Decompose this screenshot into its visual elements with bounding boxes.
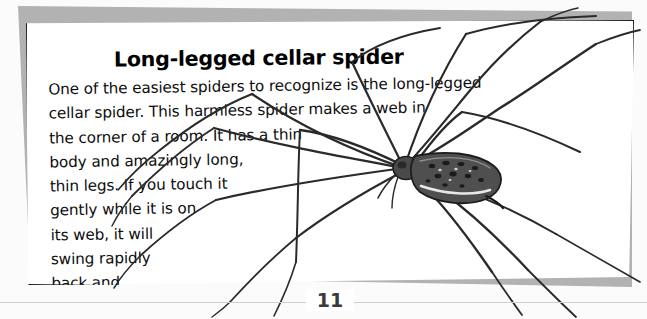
page-title: Long-legged cellar spider bbox=[114, 45, 404, 72]
body-paragraph: One of the easiest spiders to recognize … bbox=[48, 71, 482, 285]
page-content-area: Long-legged cellar spider One of the eas… bbox=[26, 20, 634, 285]
book-page-scan: Long-legged cellar spider One of the eas… bbox=[0, 0, 647, 319]
page-number: 11 bbox=[306, 289, 354, 311]
